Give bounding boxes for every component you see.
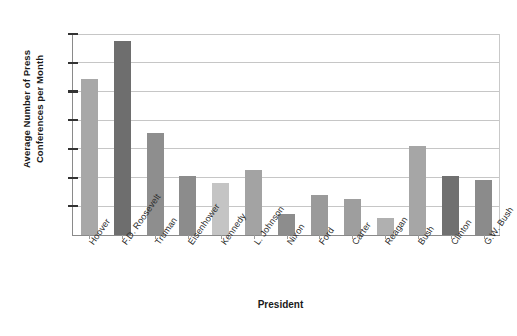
y-axis-tick bbox=[68, 177, 78, 179]
gridline bbox=[73, 177, 500, 178]
bar bbox=[475, 180, 492, 235]
bar bbox=[179, 176, 196, 235]
y-axis-tick bbox=[68, 148, 78, 150]
y-axis-tick bbox=[68, 205, 78, 207]
chart-screenshot: Average Number of Press Conferences per … bbox=[0, 0, 517, 336]
bar bbox=[409, 146, 426, 235]
y-axis-title-line-1: Average Number of Press bbox=[21, 50, 32, 168]
y-axis-tick bbox=[68, 119, 78, 121]
bar bbox=[147, 133, 164, 235]
gridline bbox=[73, 91, 500, 92]
gridline bbox=[73, 34, 500, 35]
plot-right-border bbox=[499, 34, 500, 235]
y-axis-tick bbox=[68, 90, 78, 92]
y-axis-title-line-2: Conferences per Month bbox=[34, 55, 45, 163]
plot-area bbox=[72, 34, 500, 236]
bar bbox=[114, 41, 131, 235]
y-axis-tick bbox=[68, 33, 78, 35]
y-axis-title-container: Average Number of Press Conferences per … bbox=[0, 0, 52, 250]
y-axis-tick bbox=[68, 62, 78, 64]
bar bbox=[245, 170, 262, 235]
gridline bbox=[73, 120, 500, 121]
gridline bbox=[73, 62, 500, 63]
y-axis-title: Average Number of Press Conferences per … bbox=[20, 14, 46, 204]
bar bbox=[81, 79, 98, 235]
gridline bbox=[73, 148, 500, 149]
bar bbox=[442, 176, 459, 235]
x-axis-title: President bbox=[0, 299, 517, 310]
gridline bbox=[73, 206, 500, 207]
